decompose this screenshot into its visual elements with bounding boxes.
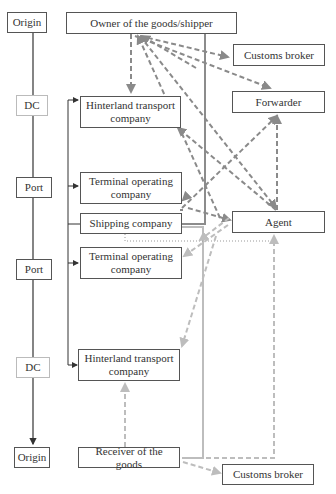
stage-dc-bottom: DC [16, 357, 50, 378]
agent-box: Agent [232, 211, 325, 233]
stage-port-top: Port [16, 177, 52, 198]
customs-broker-top-box: Customs broker [233, 44, 325, 66]
receiver-of-goods-box: Receiver of the goods [78, 447, 180, 468]
owner-of-goods-box: Owner of the goods/shipper [66, 12, 237, 34]
hinterland-transport-top-box: Hinterland transport company [80, 96, 181, 128]
stage-port-bottom: Port [16, 259, 52, 280]
shipping-company-box: Shipping company [80, 213, 182, 234]
customs-broker-bottom-box: Customs broker [222, 464, 314, 485]
stage-origin-bottom: Origin [14, 447, 50, 468]
forwarder-box: Forwarder [232, 91, 325, 113]
hinterland-transport-bottom-box: Hinterland transport company [78, 349, 180, 381]
terminal-operating-top-box: Terminal operating company [80, 172, 182, 204]
terminal-operating-bottom-box: Terminal operating company [80, 247, 182, 279]
stage-dc-top: DC [16, 95, 48, 116]
stage-origin-top: Origin [7, 12, 47, 33]
